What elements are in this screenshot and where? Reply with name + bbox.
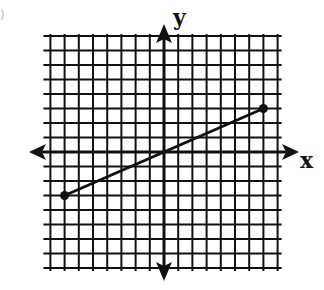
coordinate-plane	[0, 0, 324, 290]
x-axis-label: x	[300, 149, 313, 171]
y-axis-label: y	[173, 6, 186, 28]
